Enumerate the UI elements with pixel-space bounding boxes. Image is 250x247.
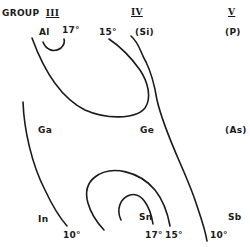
contour-si-10 <box>131 36 207 241</box>
contour-sn-17 <box>119 195 153 224</box>
contour-lines <box>0 0 250 247</box>
contour-left-10 <box>23 102 67 226</box>
contour-sn-15 <box>87 171 170 230</box>
contour-al-17 <box>43 39 64 50</box>
